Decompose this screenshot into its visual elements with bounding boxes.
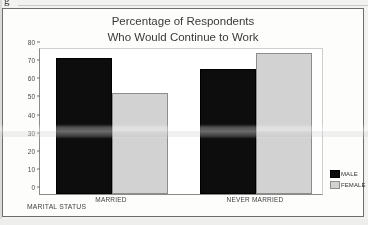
page-edge-bottom	[0, 219, 368, 225]
x-axis-category-label: MARRIED	[95, 196, 126, 203]
y-axis-tick: 70	[28, 57, 40, 64]
legend-label-male: MALE	[341, 171, 358, 177]
y-axis-tick-label: 20	[28, 147, 37, 154]
y-axis-tick-mark	[37, 150, 40, 151]
scanned-page: g Percentage of Respondents Who Would Co…	[0, 0, 368, 225]
legend-label-female: FEMALE	[341, 182, 366, 188]
y-axis-tick-mark	[37, 60, 40, 61]
y-axis-tick: 20	[28, 147, 40, 154]
legend-swatch-female	[330, 181, 340, 189]
chart-legend: MALEFEMALE	[330, 169, 364, 191]
bar-never-married-female	[256, 53, 312, 194]
y-axis-tick-mark	[37, 168, 40, 169]
y-axis-tick: 50	[28, 93, 40, 100]
y-axis-tick-label: 10	[28, 165, 37, 172]
y-axis-tick: 0	[31, 184, 40, 191]
y-axis-tick-mark	[37, 42, 40, 43]
bar-married-male	[56, 58, 112, 194]
y-axis-tick: 30	[28, 129, 40, 136]
plot-area: 01020304050607080	[39, 48, 323, 195]
chart-frame: Percentage of Respondents Who Would Cont…	[2, 8, 364, 217]
y-axis-tick-label: 80	[28, 39, 37, 46]
stray-scan-glyph: g	[4, 0, 10, 5]
y-axis-tick: 60	[28, 75, 40, 82]
legend-item-male[interactable]: MALE	[330, 169, 364, 178]
top-rule-divider	[18, 5, 368, 6]
y-axis-tick-label: 70	[28, 57, 37, 64]
bar-never-married-male	[200, 69, 256, 194]
y-axis-tick-mark	[37, 78, 40, 79]
y-axis-tick: 10	[28, 165, 40, 172]
y-axis-tick: 80	[28, 39, 40, 46]
chart-title-line-2: Who Would Continue to Work	[3, 31, 363, 43]
y-axis-tick-mark	[37, 132, 40, 133]
y-axis-tick-mark	[37, 114, 40, 115]
chart-title-line-1: Percentage of Respondents	[3, 15, 363, 27]
y-axis-tick-label: 60	[28, 75, 37, 82]
bar-married-female	[112, 93, 168, 195]
legend-item-female[interactable]: FEMALE	[330, 180, 364, 189]
legend-swatch-male	[330, 170, 340, 178]
y-axis-tick: 40	[28, 111, 40, 118]
x-axis-category-label: NEVER MARRIED	[227, 196, 284, 203]
y-axis-tick-label: 30	[28, 129, 37, 136]
y-axis-tick-label: 40	[28, 111, 37, 118]
y-axis-tick-mark	[37, 187, 40, 188]
x-axis-title: MARITAL STATUS	[27, 203, 86, 210]
y-axis-tick-mark	[37, 96, 40, 97]
y-axis-tick-label: 50	[28, 93, 37, 100]
